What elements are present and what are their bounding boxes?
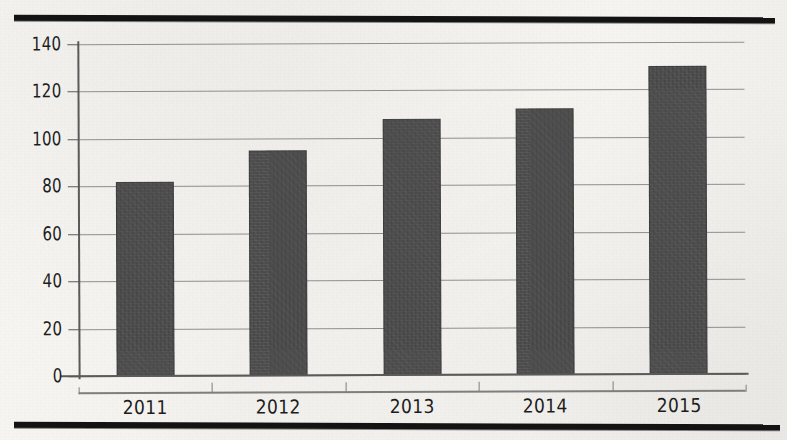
y-axis-ticks (0, 0, 786, 2)
y-axis-label-60: 60 (13, 224, 62, 243)
bar-2014 (516, 108, 575, 374)
x-axis-labels: 20112012201320142015 (0, 0, 786, 2)
y-axis-label-40: 40 (13, 271, 62, 290)
bar-2015 (648, 66, 707, 374)
bar-2013 (383, 119, 442, 375)
bar-2011 (116, 182, 175, 376)
y-axis-label-80: 80 (13, 176, 62, 195)
y-tick-140 (67, 44, 78, 45)
x-axis-label-2012: 2012 (218, 396, 338, 417)
category-axis-line (79, 390, 746, 395)
category-divider-4 (613, 381, 614, 391)
x-axis-label-2015: 2015 (619, 395, 739, 416)
y-tick-0 (69, 376, 80, 377)
y-axis-label-20: 20 (13, 319, 62, 338)
y-axis-label-140: 140 (12, 34, 61, 53)
y-tick-60 (68, 234, 79, 235)
y-axis-label-120: 120 (12, 81, 61, 100)
category-axis-edge-left (79, 387, 80, 394)
scanned-page: 020406080100120140 20112012201320142015 (0, 0, 787, 440)
gridlines (77, 42, 744, 45)
category-dividers (0, 0, 786, 2)
y-axis-label-0: 0 (13, 366, 62, 385)
y-tick-120 (68, 91, 79, 92)
category-axis-edge-right (746, 385, 747, 392)
y-tick-20 (68, 329, 79, 330)
bar-chart: 020406080100120140 20112012201320142015 (0, 0, 787, 440)
y-axis-labels: 020406080100120140 (0, 1, 63, 440)
y-axis-label-100: 100 (12, 129, 61, 148)
category-divider-3 (479, 382, 480, 392)
x-axis-label-2014: 2014 (485, 395, 605, 416)
category-divider-2 (346, 382, 347, 392)
y-tick-40 (68, 281, 79, 282)
gridline-140 (77, 42, 744, 46)
gridline-120 (78, 89, 745, 93)
category-divider-1 (212, 383, 213, 393)
plot-area (77, 42, 745, 377)
y-tick-100 (68, 139, 79, 140)
x-axis-label-2013: 2013 (352, 396, 472, 417)
bar-2012 (249, 150, 308, 375)
y-tick-80 (68, 186, 79, 187)
x-axis-label-2011: 2011 (85, 397, 205, 418)
